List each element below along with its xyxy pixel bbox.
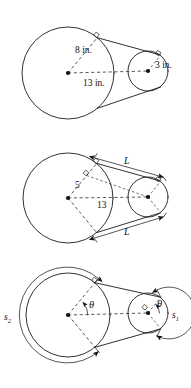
label-center-distance-middle: 13	[97, 200, 107, 210]
label-arc-s1-bottom: s1	[172, 310, 179, 322]
label-center-distance-top: 13 in.	[83, 78, 105, 88]
label-tangent-upper-middle: L	[123, 155, 130, 166]
label-arc-s2-bottom: s2	[4, 312, 12, 324]
label-small-radius-top: 3 in.	[155, 60, 172, 70]
label-radius-difference-middle: 5	[75, 180, 80, 190]
figure-labels-svg: 8 in. 13 in. 3 in. 5 13 L L s2 s1 θ θ	[0, 0, 191, 388]
label-theta-large-bottom: θ	[89, 299, 94, 310]
label-theta-small-bottom: θ	[157, 298, 162, 309]
geometry-figure: 8 in. 13 in. 3 in. 5 13 L L s2 s1 θ θ	[0, 0, 191, 388]
label-tangent-lower-middle: L	[123, 226, 130, 237]
label-large-radius-top: 8 in.	[75, 45, 92, 55]
